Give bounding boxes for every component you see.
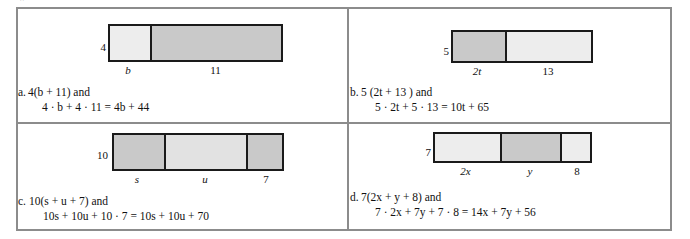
table-cell-c: 10 s u 7 10(s + u + 7) and 10s + 10u + 1… — [18, 124, 347, 229]
bar-height-label-c: 10 — [88, 149, 108, 161]
answer-line-1-b: 5 (2t + 13 ) and — [361, 85, 489, 100]
answer-text-c: 10(s + u + 7) and 10s + 10u + 10 · 7 = 1… — [29, 194, 209, 224]
bar-segment-c-3 — [246, 135, 282, 169]
answer-line-1-c: 10(s + u + 7) and — [29, 194, 209, 209]
bar-segment-label-d-3: 8 — [562, 165, 592, 177]
bar-segment-label-d-1: 2x — [433, 165, 498, 177]
bar-segment-label-a-1: b — [108, 64, 148, 76]
answer-marker-a: a. — [18, 85, 26, 100]
bar-segment-b-1 — [453, 32, 505, 61]
table-cell-b: 5 2t 13 5 (2t + 13 ) and 5 · 2t + 5 · 13… — [349, 9, 670, 122]
answer-marker-label-d: d. — [350, 190, 359, 205]
bar-segment-label-b-2: 13 — [505, 65, 591, 77]
answer-line-2-c: 10s + 10u + 10 · 7 = 10s + 10u + 70 — [29, 209, 209, 224]
bar-segment-c-2 — [164, 135, 246, 169]
answer-line-2-b: 5 · 2t + 5 · 13 = 10t + 65 — [361, 100, 489, 115]
answer-text-b: 5 (2t + 13 ) and 5 · 2t + 5 · 13 = 10t +… — [361, 85, 489, 115]
answer-line-2-a: 4 · b + 4 · 11 = 4b + 44 — [28, 100, 149, 115]
area-model-bar-c — [112, 133, 284, 171]
area-model-bar-b — [451, 30, 593, 63]
answer-marker-d: d. — [350, 190, 359, 205]
bar-segment-d-1 — [435, 134, 500, 161]
stray-mark: '' — [20, 0, 32, 5]
answer-line-1-a: 4(b + 11) and — [28, 85, 149, 100]
answer-table: 4 b 11 4(b + 11) and 4 · b + 4 · 11 = 4b… — [16, 7, 672, 231]
table-cell-d: 7 2x y 8 7(2x + y + 8) and 7 · 2x + 7y +… — [349, 124, 670, 229]
answer-text-d: 7(2x + y + 8) and 7 · 2x + 7y + 7 · 8 = … — [361, 190, 536, 220]
bar-height-label-b: 5 — [433, 45, 449, 57]
bar-segment-label-d-2: y — [500, 165, 560, 177]
bar-segment-label-a-2: 11 — [150, 64, 281, 76]
bar-segment-label-c-2: u — [164, 173, 246, 185]
bar-segment-c-1 — [114, 135, 164, 169]
answer-marker-c: c. — [18, 194, 26, 209]
answer-marker-label-a: a. — [18, 85, 26, 100]
answer-line-2-d: 7 · 2x + 7y + 7 · 8 = 14x + 7y + 56 — [361, 205, 536, 220]
bar-segment-label-c-3: 7 — [248, 173, 284, 185]
bar-segment-b-2 — [505, 32, 591, 61]
area-model-bar-a — [108, 24, 283, 62]
answer-marker-label-c: c. — [18, 194, 26, 209]
answer-text-a: 4(b + 11) and 4 · b + 4 · 11 = 4b + 44 — [28, 85, 149, 115]
answer-marker-label-b: b. — [350, 85, 359, 100]
bar-segment-a-2 — [150, 26, 281, 60]
bar-height-label-a: 4 — [90, 41, 106, 53]
answer-line-1-d: 7(2x + y + 8) and — [361, 190, 536, 205]
bar-segment-d-2 — [500, 134, 560, 161]
bar-segment-a-1 — [110, 26, 150, 60]
bar-height-label-d: 7 — [415, 146, 431, 158]
bar-segment-d-3 — [560, 134, 590, 161]
bar-segment-label-c-1: s — [112, 173, 162, 185]
worksheet-page: '' 4 b 11 4(b + 11) and 4 · b + 4 · 11 =… — [0, 0, 690, 239]
table-cell-a: 4 b 11 4(b + 11) and 4 · b + 4 · 11 = 4b… — [18, 9, 347, 122]
answer-marker-b: b. — [350, 85, 359, 100]
area-model-bar-d — [433, 132, 592, 163]
bar-segment-label-b-1: 2t — [451, 65, 503, 77]
